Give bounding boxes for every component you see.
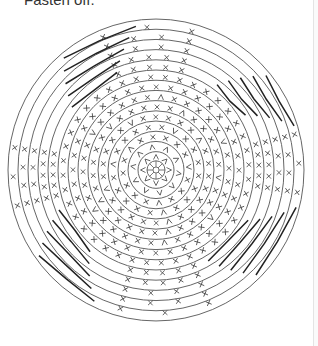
- single-crochet-symbol: [68, 130, 74, 136]
- single-crochet-symbol: [66, 201, 72, 207]
- single-crochet-symbol: [103, 245, 109, 251]
- decrease-symbol: [186, 164, 192, 170]
- single-crochet-symbol: [185, 177, 191, 183]
- single-crochet-symbol: [168, 249, 173, 254]
- single-crochet-symbol: [15, 203, 21, 209]
- single-crochet-symbol: [164, 55, 169, 60]
- single-crochet-symbol: [255, 152, 260, 157]
- single-crochet-symbol: [52, 183, 57, 188]
- single-crochet-symbol: [131, 67, 136, 72]
- single-crochet-symbol: [98, 119, 104, 125]
- single-crochet-symbol: [233, 120, 239, 126]
- single-crochet-symbol: [187, 254, 193, 260]
- single-crochet-symbol: [197, 197, 203, 203]
- spoke-line: [150, 172, 154, 176]
- single-crochet-symbol: [231, 139, 237, 145]
- single-crochet-symbol: [21, 183, 26, 188]
- single-crochet-symbol: [109, 137, 115, 143]
- increase-symbol: [141, 168, 146, 173]
- single-crochet-symbol: [106, 87, 112, 93]
- single-crochet-symbol: [246, 177, 251, 182]
- single-crochet-symbol: [154, 85, 159, 90]
- single-crochet-symbol: [222, 192, 228, 198]
- single-crochet-symbol: [132, 192, 138, 198]
- single-crochet-symbol: [175, 237, 181, 243]
- decrease-symbol: [171, 128, 178, 135]
- increase-symbol: [154, 181, 159, 186]
- single-crochet-symbol: [117, 127, 123, 133]
- single-crochet-symbol: [141, 105, 146, 110]
- single-crochet-symbol: [148, 290, 153, 295]
- single-crochet-symbol: [216, 162, 221, 167]
- single-crochet-symbol: [75, 195, 81, 201]
- single-crochet-symbol: [99, 134, 105, 140]
- single-crochet-symbol: [130, 257, 136, 263]
- single-crochet-symbol: [216, 220, 222, 226]
- single-crochet-symbol: [12, 145, 17, 150]
- single-crochet-symbol: [181, 245, 187, 251]
- decrease-symbol: [216, 175, 222, 181]
- long-stitch-segment: [39, 256, 94, 302]
- single-crochet-symbol: [139, 249, 144, 254]
- single-crochet-symbol: [255, 183, 260, 188]
- single-crochet-symbol: [206, 161, 211, 166]
- single-crochet-symbol: [173, 205, 179, 211]
- decrease-symbol: [162, 240, 168, 246]
- single-crochet-symbol: [34, 198, 40, 204]
- single-crochet-symbol: [174, 141, 180, 147]
- increase-symbol: [167, 168, 172, 173]
- single-crochet-symbol: [200, 247, 206, 253]
- decrease-symbol: [128, 120, 135, 127]
- single-crochet-symbol: [118, 207, 124, 213]
- single-crochet-symbol: [207, 199, 213, 205]
- single-crochet-symbol: [166, 116, 172, 122]
- single-crochet-symbol: [119, 102, 125, 108]
- single-crochet-symbol: [194, 239, 200, 245]
- single-crochet-symbol: [112, 95, 118, 101]
- single-crochet-symbol: [159, 45, 164, 50]
- single-crochet-symbol: [208, 136, 214, 142]
- single-crochet-symbol: [187, 231, 193, 237]
- single-crochet-symbol: [146, 55, 151, 60]
- single-crochet-symbol: [42, 184, 47, 189]
- single-crochet-symbol: [81, 156, 86, 161]
- single-crochet-symbol: [171, 97, 177, 103]
- single-crochet-symbol: [84, 142, 90, 148]
- single-crochet-symbol: [263, 139, 269, 145]
- single-crochet-symbol: [189, 218, 195, 224]
- single-crochet-symbol: [225, 179, 230, 184]
- single-crochet-symbol: [153, 115, 158, 120]
- single-crochet-symbol: [51, 172, 56, 177]
- single-crochet-symbol: [296, 161, 301, 166]
- single-crochet-symbol: [191, 147, 197, 153]
- single-crochet-symbol: [91, 236, 97, 242]
- increase-symbol: [97, 197, 104, 204]
- single-crochet-symbol: [183, 136, 190, 143]
- increase-symbol: [91, 206, 98, 213]
- single-crochet-symbol: [94, 95, 100, 101]
- decrease-symbol: [156, 200, 162, 206]
- single-crochet-symbol: [222, 229, 228, 235]
- single-crochet-symbol: [145, 95, 150, 100]
- single-crochet-symbol: [272, 137, 278, 143]
- magic-ring: [153, 167, 159, 173]
- scrollbar-track[interactable]: [314, 0, 318, 346]
- single-crochet-symbol: [81, 169, 86, 174]
- single-crochet-symbol: [235, 182, 240, 187]
- round-ring: [28, 39, 284, 300]
- single-crochet-symbol: [195, 95, 201, 101]
- increase-symbol: [142, 187, 149, 194]
- single-crochet-symbol: [179, 67, 185, 73]
- single-crochet-symbol: [124, 245, 130, 251]
- single-crochet-symbol: [111, 175, 116, 180]
- single-crochet-symbol: [181, 58, 187, 64]
- single-crochet-symbol: [133, 129, 139, 135]
- round-ring: [138, 152, 174, 189]
- decrease-symbol: [166, 218, 172, 224]
- single-crochet-symbol: [144, 270, 149, 275]
- single-crochet-symbol: [81, 226, 87, 232]
- single-crochet-symbol: [141, 219, 147, 225]
- single-crochet-symbol: [75, 117, 81, 123]
- single-crochet-symbol: [225, 126, 231, 132]
- single-crochet-symbol: [72, 182, 77, 187]
